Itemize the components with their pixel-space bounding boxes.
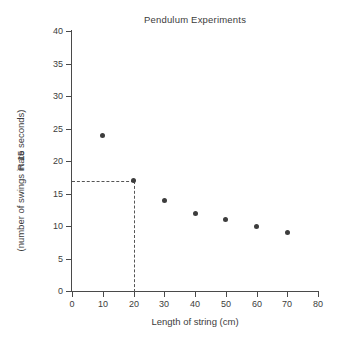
x-axis-tick-label: 40 (184, 300, 206, 309)
x-axis-tick-label: 70 (276, 300, 298, 309)
chart-figure: Pendulum Experiments 0510152025303540 01… (0, 0, 339, 345)
y-axis-tick-label: 10 (41, 222, 63, 231)
plot-area (72, 31, 318, 291)
x-axis-tick (287, 292, 288, 297)
y-axis-title: Rate (number of swings in 15 seconds) (0, 0, 40, 345)
y-axis-tick (66, 31, 71, 32)
y-axis-tick (66, 226, 71, 227)
x-axis-tick (257, 292, 258, 297)
y-axis-tick (66, 129, 71, 130)
x-axis-tick-label: 10 (92, 300, 114, 309)
x-axis-tick-label: 80 (307, 300, 329, 309)
y-axis-tick (66, 96, 71, 97)
x-axis-tick (226, 292, 227, 297)
x-axis-tick (134, 292, 135, 297)
x-axis-tick-label: 60 (246, 300, 268, 309)
y-axis-title-line2: (number of swings in 15 seconds) (15, 106, 26, 256)
data-point (254, 224, 259, 229)
guide-line-horizontal (72, 181, 134, 182)
y-axis-tick (66, 291, 71, 292)
x-axis-tick-label: 0 (61, 300, 83, 309)
x-axis-tick-label: 20 (123, 300, 145, 309)
guide-line-vertical (134, 181, 135, 292)
y-axis-tick-label: 0 (41, 287, 63, 296)
x-axis-tick-label: 50 (215, 300, 237, 309)
data-point (285, 230, 290, 235)
data-point (131, 178, 136, 183)
y-axis-tick-label: 5 (41, 255, 63, 264)
data-point (162, 198, 167, 203)
x-axis-tick (164, 292, 165, 297)
x-axis-tick-label: 30 (153, 300, 175, 309)
y-axis-tick-label: 40 (41, 27, 63, 36)
x-axis-title: Length of string (cm) (72, 316, 318, 327)
data-point (100, 133, 105, 138)
chart-title: Pendulum Experiments (72, 14, 318, 25)
y-axis-tick-label: 25 (41, 125, 63, 134)
y-axis-tick (66, 259, 71, 260)
x-axis-tick (103, 292, 104, 297)
y-axis-tick (66, 194, 71, 195)
y-axis-tick (66, 64, 71, 65)
x-axis-tick (72, 292, 73, 297)
y-axis-tick-label: 30 (41, 92, 63, 101)
y-axis-tick (66, 161, 71, 162)
y-axis-tick-label: 15 (41, 190, 63, 199)
y-axis-tick-label: 20 (41, 157, 63, 166)
x-axis-tick (318, 292, 319, 297)
data-point (193, 211, 198, 216)
x-axis-tick (195, 292, 196, 297)
y-axis-tick-label: 35 (41, 60, 63, 69)
